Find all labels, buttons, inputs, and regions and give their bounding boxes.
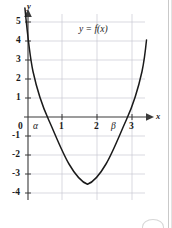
y-tick-label-1: 1 bbox=[16, 93, 21, 103]
y-tick-label-minus2: -2 bbox=[12, 150, 20, 160]
y-tick-label-minus3: -3 bbox=[12, 169, 20, 179]
x-axis-arrowhead bbox=[146, 113, 154, 121]
horizontal-gridlines bbox=[28, 22, 145, 193]
y-tick-label-5: 5 bbox=[16, 17, 21, 27]
figure-container: 5 4 3 2 1 -1 -2 -3 -4 0 1 2 3 α β y x y … bbox=[0, 0, 172, 228]
y-tick-label-4: 4 bbox=[16, 36, 21, 46]
vertical-gridlines bbox=[62, 14, 132, 200]
x-tick-label-1: 1 bbox=[59, 122, 64, 132]
y-tick-label-minus4: -4 bbox=[12, 188, 20, 198]
curve-equation-label: y = f(x) bbox=[79, 25, 108, 35]
y-tick-label-3: 3 bbox=[16, 55, 21, 65]
y-tick-label-2: 2 bbox=[16, 74, 21, 84]
origin-label: 0 bbox=[18, 122, 23, 132]
y-tick-label-minus1: -1 bbox=[12, 131, 20, 141]
beta-root-label: β bbox=[111, 122, 116, 132]
x-tick-label-3: 3 bbox=[129, 122, 134, 132]
x-axis-name-label: x bbox=[156, 112, 160, 121]
page-corner-mark-icon bbox=[142, 219, 164, 228]
y-axis-name-label: y bbox=[27, 2, 31, 11]
page-right-outer-divider bbox=[171, 0, 172, 228]
x-tick-label-2: 2 bbox=[94, 122, 99, 132]
page-right-edge-divider bbox=[168, 0, 169, 228]
alpha-root-label: α bbox=[33, 122, 38, 132]
